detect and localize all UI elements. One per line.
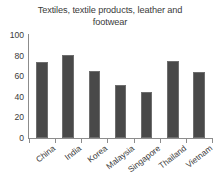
x-axis-category-labels: ChinaIndiaKoreaMalaysiaSingaporeThailand… [0, 0, 217, 194]
bar-chart: Textiles, textile products, leather and … [0, 0, 217, 194]
